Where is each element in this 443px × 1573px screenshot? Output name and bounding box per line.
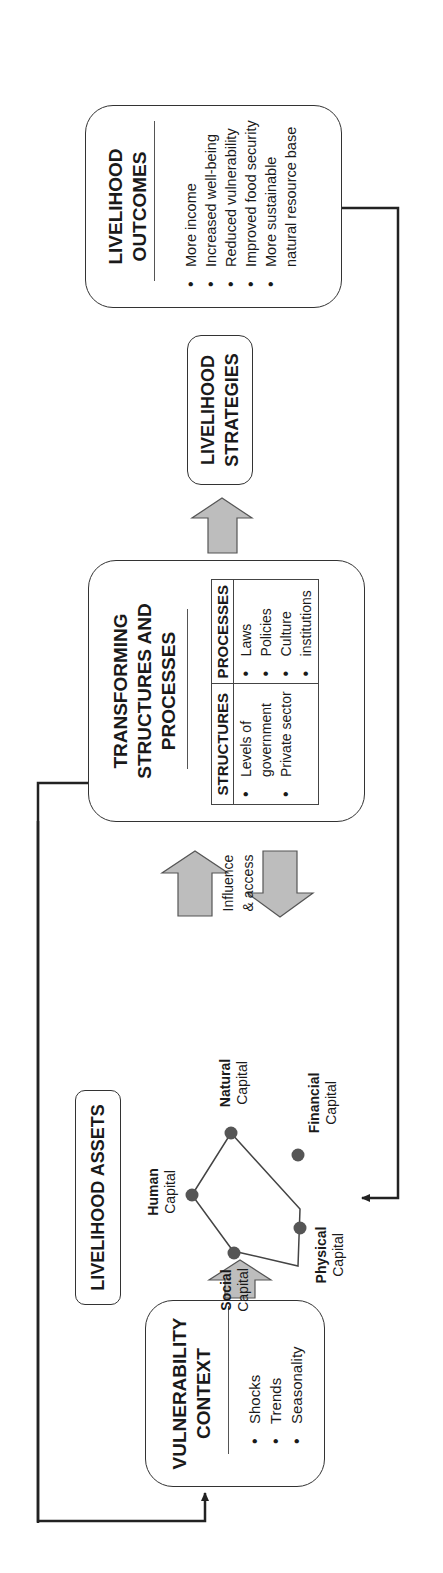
structures-processes-table: STRUCTURES PROCESSES Levels of governmen… bbox=[211, 579, 319, 805]
livelihood-strategies-box: LIVELIHOOD STRATEGIES bbox=[187, 335, 253, 485]
node-physical-capital bbox=[294, 1222, 307, 1235]
influence-access-label: Influence & access bbox=[218, 843, 258, 923]
divider bbox=[228, 1306, 229, 1454]
livelihood-outcomes-box: LIVELIHOOD OUTCOMES More income Increase… bbox=[85, 105, 342, 308]
processes-header: PROCESSES bbox=[212, 580, 234, 684]
label-natural-capital: Natural Capital bbox=[217, 1048, 251, 1118]
label-financial-capital: Financial Capital bbox=[306, 1063, 340, 1143]
transforming-structures-processes-box: TRANSFORMING STRUCTURES AND PROCESSES ST… bbox=[88, 560, 365, 822]
block-arrow-transforming-to-strategies bbox=[192, 498, 252, 553]
node-human-capital bbox=[186, 1189, 199, 1202]
outcomes-list: More income Increased well-being Reduced… bbox=[181, 109, 301, 289]
structures-list: Levels of government Private sector bbox=[236, 689, 296, 799]
label-human-capital: Human Capital bbox=[145, 1157, 179, 1227]
node-social-capital bbox=[228, 1247, 241, 1260]
vulnerability-context-title: VULNERABILITY CONTEXT bbox=[146, 1301, 216, 1486]
label-social-capital: Social Capital bbox=[218, 1260, 252, 1320]
divider bbox=[187, 609, 188, 769]
structures-header: STRUCTURES bbox=[212, 684, 234, 805]
vulnerability-context-box: VULNERABILITY CONTEXT Shocks Trends Seas… bbox=[145, 1300, 325, 1487]
processes-list: Laws Policies Culture institutions bbox=[236, 585, 316, 678]
node-natural-capital bbox=[225, 1127, 238, 1140]
node-financial-capital bbox=[292, 1149, 305, 1162]
outcomes-title: LIVELIHOOD OUTCOMES bbox=[86, 106, 152, 307]
asset-pentagon bbox=[186, 1127, 307, 1267]
sustainable-livelihoods-framework-diagram: VULNERABILITY CONTEXT Shocks Trends Seas… bbox=[0, 0, 443, 1573]
divider bbox=[154, 121, 155, 281]
label-physical-capital: Physical Capital bbox=[313, 1215, 347, 1295]
vulnerability-list: Shocks Trends Seasonality bbox=[244, 1346, 307, 1446]
transforming-title: TRANSFORMING STRUCTURES AND PROCESSES bbox=[89, 561, 181, 821]
livelihood-assets-box: LIVELIHOOD ASSETS bbox=[75, 1090, 121, 1305]
